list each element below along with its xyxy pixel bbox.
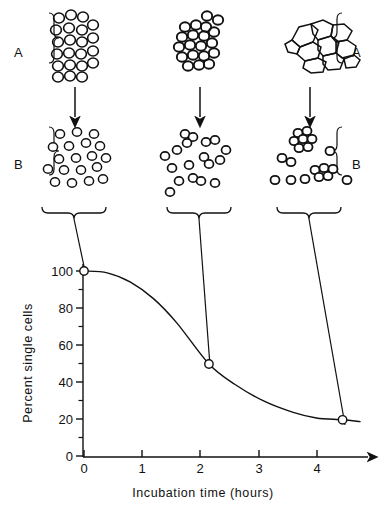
row-a-label-left: A bbox=[14, 45, 23, 60]
x-tick-label-3: 3 bbox=[255, 461, 262, 476]
y-tick-label-0: 0 bbox=[66, 449, 73, 464]
data-point-markers bbox=[80, 267, 347, 424]
figure-container: A A bbox=[0, 0, 385, 513]
x-axis-tick-labels: 0 1 2 3 4 bbox=[80, 461, 320, 476]
data-point-50 bbox=[205, 360, 213, 368]
y-axis-title: Percent single cells bbox=[21, 303, 35, 423]
y-tick-label-80: 80 bbox=[59, 301, 73, 316]
tissue-cluster-0h bbox=[51, 10, 99, 82]
x-tick-label-0: 0 bbox=[80, 461, 87, 476]
x-tick-label-1: 1 bbox=[138, 461, 145, 476]
row-b-label-right: B bbox=[352, 157, 361, 172]
data-point-100 bbox=[80, 267, 88, 275]
leader-brace-0h bbox=[42, 207, 106, 219]
data-point-20 bbox=[338, 416, 346, 424]
y-tick-label-40: 40 bbox=[59, 375, 73, 390]
tissue-cluster-2h bbox=[174, 11, 223, 71]
suspension-cluster-2h bbox=[161, 130, 231, 196]
y-axis-tick-labels: 100 80 60 40 20 0 bbox=[51, 264, 73, 464]
tissue-cluster-4h bbox=[285, 20, 360, 73]
leader-brace-4h bbox=[277, 207, 341, 219]
y-tick-label-100: 100 bbox=[51, 264, 73, 279]
suspension-cluster-4h bbox=[271, 127, 352, 184]
row-b-label-left: B bbox=[14, 157, 23, 172]
x-axis-title: Incubation time (hours) bbox=[132, 486, 274, 500]
x-tick-label-2: 2 bbox=[196, 461, 203, 476]
leader-line-2h bbox=[199, 219, 210, 366]
x-axis-major-ticks bbox=[84, 450, 317, 457]
leader-brace-2h bbox=[167, 207, 231, 219]
leader-line-4h bbox=[309, 219, 345, 425]
y-tick-label-60: 60 bbox=[59, 338, 73, 353]
figure-canvas: A A bbox=[0, 0, 385, 513]
x-tick-label-4: 4 bbox=[313, 461, 320, 476]
leader-line-0h bbox=[74, 219, 85, 271]
y-tick-label-20: 20 bbox=[59, 412, 73, 427]
data-curve bbox=[84, 271, 360, 422]
